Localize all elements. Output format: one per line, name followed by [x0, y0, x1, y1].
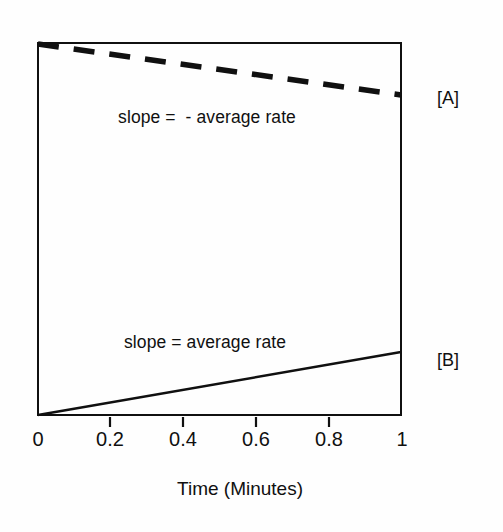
chart-figure: slope = - average rate slope = average r…: [0, 0, 503, 532]
annotation-average-rate: slope = average rate: [124, 332, 286, 353]
x-tick-label-0.8: 0.8: [315, 428, 343, 451]
x-tick-label-0.2: 0.2: [96, 428, 124, 451]
annotation-negative-average-rate: slope = - average rate: [118, 107, 296, 128]
x-tick-label-0.4: 0.4: [169, 428, 197, 451]
series-label-a: [A]: [437, 88, 459, 109]
plot-area: [37, 42, 402, 416]
x-tick-label-0.6: 0.6: [242, 428, 270, 451]
x-axis-title: Time (Minutes): [177, 478, 303, 500]
series-label-b: [B]: [437, 350, 459, 371]
x-tick-label-1: 1: [396, 428, 407, 451]
x-axis-ticks: [110, 417, 329, 427]
x-tick-label-0: 0: [32, 428, 43, 451]
